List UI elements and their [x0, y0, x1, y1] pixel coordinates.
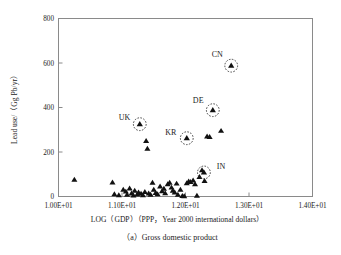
data-point-marker — [71, 177, 77, 182]
data-point-marker — [218, 128, 224, 133]
point-label-in: IN — [217, 162, 226, 171]
y-axis-tick-label: 0 — [50, 193, 54, 201]
data-point-marker — [177, 187, 183, 192]
data-point-marker — [228, 63, 234, 68]
x-axis-tick-label: 1.00E+01 — [44, 202, 73, 210]
data-point-marker — [143, 138, 149, 143]
y-axis-tick-label: 200 — [43, 149, 54, 157]
data-point-marker — [132, 188, 138, 193]
data-point-marker — [137, 121, 143, 126]
data-point-marker — [127, 186, 133, 191]
data-point-marker — [111, 191, 117, 196]
scatter-chart: 02004006008001.00E+011.10E+011.20E+011.3… — [0, 0, 341, 255]
y-axis-tick-label: 800 — [43, 15, 54, 23]
y-axis-tick-label: 400 — [43, 104, 54, 112]
figure-caption: （a）Gross domestic product — [122, 233, 218, 242]
data-point-marker — [210, 107, 216, 112]
x-axis-tick-label: 1.40E+01 — [298, 202, 327, 210]
data-point-marker — [109, 180, 115, 185]
point-label-cn: CN — [212, 50, 223, 59]
point-label-kr: KR — [165, 128, 177, 137]
data-point-marker — [184, 135, 190, 140]
y-axis-tick-label: 600 — [43, 60, 54, 68]
plot-frame — [59, 19, 313, 197]
x-axis-tick-label: 1.20E+01 — [171, 202, 200, 210]
x-axis-title: LOG（GDP）（PPP，Year 2000 international dol… — [91, 215, 264, 224]
figure-container: 02004006008001.00E+011.10E+011.20E+011.3… — [0, 0, 341, 255]
x-axis-tick-label: 1.30E+01 — [235, 202, 264, 210]
data-point-marker — [149, 180, 155, 185]
data-point-marker — [194, 193, 200, 198]
x-axis-tick-label: 1.10E+01 — [108, 202, 137, 210]
point-label-de: DE — [193, 96, 204, 105]
data-point-marker — [157, 184, 163, 189]
data-point-marker — [144, 146, 150, 151]
point-label-uk: UK — [119, 113, 131, 122]
data-point-marker — [174, 181, 180, 186]
data-point-marker — [116, 192, 122, 197]
y-axis-title: Lead use/（Gg Pb/yr） — [10, 71, 19, 144]
